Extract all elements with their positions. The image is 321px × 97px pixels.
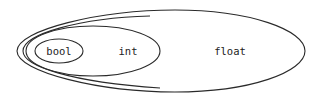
float-set-inner-contour: [23, 16, 160, 88]
nested-sets-diagram: bool int float: [0, 0, 321, 97]
float-label: float: [214, 45, 246, 57]
int-label: int: [119, 45, 138, 57]
bool-label: bool: [46, 45, 71, 57]
